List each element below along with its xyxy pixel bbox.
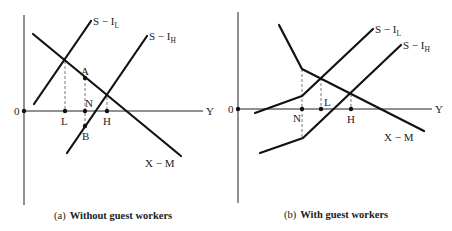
label-s-minus-i-high: S − IH xyxy=(149,30,176,45)
curve-s-minus-i-low xyxy=(255,29,373,113)
origin-label: 0 xyxy=(228,103,234,115)
label-a: A xyxy=(81,65,89,77)
label-s-minus-i-high: S − IH xyxy=(403,39,430,54)
label-h: H xyxy=(103,115,111,127)
origin-dot xyxy=(22,109,26,113)
panel-a: 0 Y L N H A B S − IL S − IH X − M (a)Wit… xyxy=(14,15,214,222)
point-n xyxy=(83,109,87,113)
point-b xyxy=(83,124,87,128)
label-n: N xyxy=(85,97,93,109)
label-n: N xyxy=(293,112,301,124)
x-axis-label: Y xyxy=(206,105,214,117)
point-n xyxy=(300,107,304,111)
point-h xyxy=(105,109,109,113)
point-l xyxy=(319,107,323,111)
point-l xyxy=(63,109,67,113)
curve-s-minus-i-low xyxy=(34,21,91,104)
label-s-minus-i-low: S − IL xyxy=(375,23,401,38)
label-s-minus-i-low: S − IL xyxy=(93,15,119,30)
diagram-canvas: 0 Y L N H A B S − IL S − IH X − M (a)Wit… xyxy=(0,0,452,231)
label-x-minus-m: X − M xyxy=(145,157,175,169)
label-b: B xyxy=(82,130,89,142)
label-l: L xyxy=(324,96,331,108)
label-x-minus-m: X − M xyxy=(384,131,414,143)
curve-x-minus-m xyxy=(33,34,181,156)
caption-b: (b)With guest workers xyxy=(284,209,388,221)
point-h xyxy=(349,107,353,111)
caption-a: (a)Without guest workers xyxy=(54,210,172,222)
x-axis-label: Y xyxy=(435,103,443,115)
label-h: H xyxy=(347,113,355,125)
panel-b: 0 Y N L H S − IL S − IH X − M (b)With gu… xyxy=(228,12,443,221)
origin-dot xyxy=(236,107,240,111)
origin-label: 0 xyxy=(14,105,20,117)
label-l: L xyxy=(61,115,68,127)
